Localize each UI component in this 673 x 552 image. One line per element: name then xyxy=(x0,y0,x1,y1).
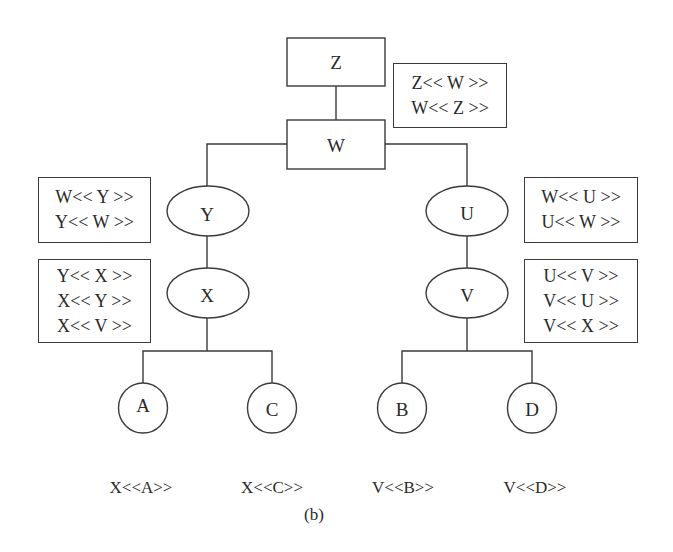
edge-v-b-d xyxy=(402,351,532,383)
leaf-label-a: X<<A>> xyxy=(110,478,173,498)
figure-caption: (b) xyxy=(304,505,324,525)
info-line: Y<< W >> xyxy=(55,210,134,235)
edge-w-u xyxy=(385,144,467,187)
info-line: U<< W >> xyxy=(542,210,621,235)
info-line: X<< V >> xyxy=(57,314,132,339)
edge-x-a-c xyxy=(143,351,272,383)
edge-w-y xyxy=(207,144,287,186)
leaf-label-b: V<<B>> xyxy=(372,478,434,498)
info-box-u-v: U<< V >> V<< U >> V<< X >> xyxy=(524,259,638,343)
info-line: V<< X >> xyxy=(543,314,619,339)
node-v-label: V xyxy=(460,286,474,305)
info-line: W<< U >> xyxy=(541,185,621,210)
node-b-label: B xyxy=(396,400,409,419)
info-box-y-x: Y<< X >> X<< Y >> X<< V >> xyxy=(38,259,151,343)
node-c-label: C xyxy=(266,400,279,419)
info-line: V<< U >> xyxy=(543,289,619,314)
node-z-label: Z xyxy=(330,53,342,72)
node-d-label: D xyxy=(525,400,539,419)
node-a-label: A xyxy=(136,396,150,415)
node-y-label: Y xyxy=(200,205,214,224)
info-line: U<< V >> xyxy=(544,264,619,289)
info-line: X<< Y >> xyxy=(57,289,131,314)
node-u-label: U xyxy=(460,204,474,223)
info-box-w-u: W<< U >> U<< W >> xyxy=(524,177,638,243)
node-w-label: W xyxy=(327,136,345,155)
info-line: W<< Z >> xyxy=(411,96,489,121)
node-x-label: X xyxy=(200,286,214,305)
info-line: W<< Y >> xyxy=(55,185,133,210)
info-box-w-y: W<< Y >> Y<< W >> xyxy=(38,177,151,243)
info-line: Y<< X >> xyxy=(57,264,133,289)
info-box-z-w: Z<< W >> W<< Z >> xyxy=(393,63,507,128)
leaf-label-d: V<<D>> xyxy=(504,478,567,498)
leaf-label-c: X<<C>> xyxy=(241,478,303,498)
info-line: Z<< W >> xyxy=(412,71,489,96)
